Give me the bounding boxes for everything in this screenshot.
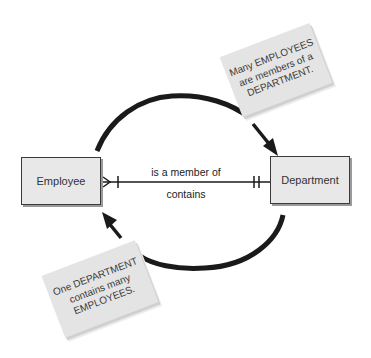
entity-employee-label: Employee	[37, 175, 86, 187]
bottom-curved-arrow	[140, 215, 283, 268]
top-curved-arrow	[97, 96, 250, 151]
relationship-reverse-label: contains	[166, 188, 205, 200]
top-arrow-shaft	[253, 124, 270, 145]
bottom-arrowhead-icon	[102, 212, 117, 229]
entity-employee[interactable]: Employee	[21, 157, 101, 205]
er-diagram: Employee Department is a member of conta…	[0, 0, 371, 358]
entity-department[interactable]: Department	[270, 156, 350, 204]
entity-department-label: Department	[281, 174, 338, 186]
relationship-forward-label: is a member of	[151, 166, 220, 178]
